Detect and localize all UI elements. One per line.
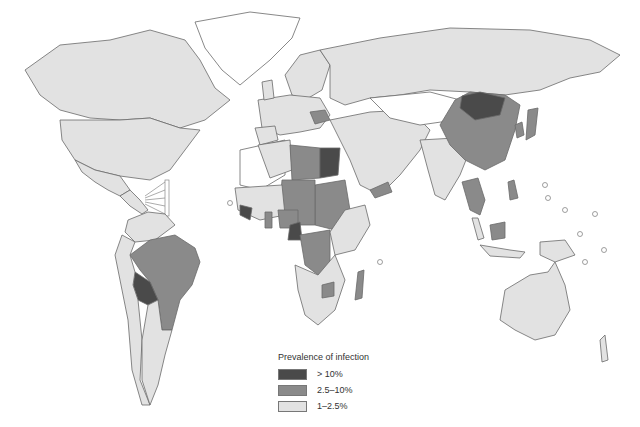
legend-swatch-high	[278, 369, 307, 380]
zimbabwe	[322, 282, 334, 298]
korea	[515, 122, 524, 138]
egypt	[320, 148, 340, 178]
japan	[526, 108, 538, 140]
greenland	[195, 12, 300, 85]
new-guinea	[540, 240, 575, 262]
legend-label: 2.5–10%	[317, 385, 353, 395]
legend-swatch-medium	[278, 385, 307, 396]
new-zealand	[600, 335, 608, 362]
cameroon	[288, 222, 302, 240]
map-legend: Prevalence of infection > 10% 2.5–10% 1–…	[278, 352, 369, 415]
malaysia-peninsula	[472, 218, 484, 240]
canada	[25, 30, 230, 128]
indonesia	[480, 245, 525, 258]
uk	[262, 80, 274, 100]
legend-label: > 10%	[317, 369, 343, 379]
scandinavia	[285, 50, 330, 100]
philippines	[508, 180, 518, 200]
legend-item-high: > 10%	[278, 367, 369, 381]
legend-item-medium: 2.5–10%	[278, 383, 369, 397]
legend-label: 1–2.5%	[317, 401, 348, 411]
borneo	[490, 222, 505, 240]
legend-swatch-low	[278, 401, 307, 412]
indochina	[462, 178, 485, 215]
legend-title: Prevalence of infection	[278, 352, 369, 362]
central-america	[120, 190, 148, 214]
australia	[500, 262, 570, 340]
libya	[290, 145, 320, 180]
madagascar	[355, 270, 364, 300]
ghana	[265, 212, 272, 228]
caribbean-callouts	[145, 180, 169, 216]
guinea	[240, 205, 252, 220]
legend-item-low: 1–2.5%	[278, 399, 369, 413]
